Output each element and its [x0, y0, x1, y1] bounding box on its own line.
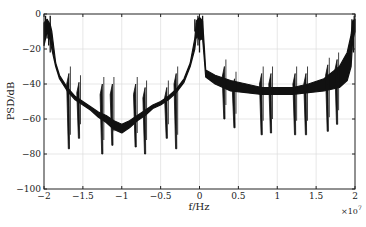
y-axis-label: PSD/dB	[5, 82, 16, 121]
y-tick-label: −20	[22, 44, 41, 54]
y-tick-label: −40	[22, 79, 41, 89]
psd-spike	[67, 74, 70, 149]
psd-spike	[232, 79, 235, 128]
x-tick-label: 1.5	[309, 191, 324, 201]
psd-chart: −2−1.5−1−0.500.511.52 0−20−40−60−80−100 …	[0, 0, 366, 227]
psd-spike	[110, 84, 113, 145]
y-tick-label: −80	[22, 149, 41, 159]
x-axis-label: f/Hz	[188, 201, 209, 212]
psd-spike	[260, 74, 263, 135]
psd-spike	[143, 88, 146, 155]
psd-spike	[269, 74, 272, 134]
psd-spike	[326, 65, 329, 132]
psd-spike	[100, 84, 103, 154]
psd-spike	[293, 74, 296, 135]
psd-spike	[165, 88, 168, 139]
x-tick-label: 0.5	[231, 191, 246, 201]
x-tick-label: −1.5	[72, 191, 94, 201]
y-tick-label: −100	[16, 184, 41, 194]
y-tick-label: 0	[35, 9, 41, 19]
psd-spike	[335, 60, 338, 125]
psd-spike	[134, 84, 137, 147]
x-tick-label: 2	[352, 191, 358, 201]
psd-spike	[174, 74, 177, 149]
y-tick-labels: 0−20−40−60−80−100	[16, 9, 41, 194]
psd-spike	[77, 82, 80, 138]
psd-spike	[304, 74, 307, 135]
x-tick-labels: −2−1.5−1−0.500.511.52	[37, 191, 358, 201]
y-tick-label: −60	[22, 114, 41, 124]
psd-spike	[222, 67, 225, 120]
x-tick-label: 0	[197, 191, 203, 201]
x-tick-label: −0.5	[150, 191, 172, 201]
x-multiplier: ×107	[341, 204, 362, 216]
x-tick-label: 1	[274, 191, 280, 201]
x-tick-label: −1	[115, 191, 128, 201]
